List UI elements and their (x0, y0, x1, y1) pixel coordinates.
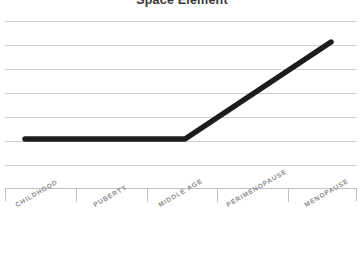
category-label-group: CHILDHOODPUBERTYMIDDLE AGEPERIMENOPAUSEM… (0, 188, 364, 254)
line-chart: Space Element CHILDHOODPUBERTYMIDDLE AGE… (0, 0, 364, 254)
series-line-space-element (25, 42, 331, 139)
